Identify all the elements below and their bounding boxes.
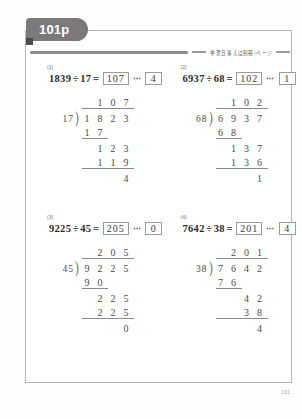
problem-number-2: (2) [181, 64, 187, 70]
problem-cell-1: (1) 1839 ÷ 17 = 107 ⋯ 4 1 0 7 [25, 62, 159, 212]
work-divisor-4: 38 [189, 264, 209, 274]
problem-cell-3: (3) 9225 ÷ 45 = 205 ⋯ 0 2 0 5 [25, 212, 159, 362]
problem-number-1: (1) [47, 64, 53, 70]
quotient-answer-box-4[interactable]: 201 [236, 222, 262, 235]
dividend-4: 7642 [183, 223, 205, 234]
work-step2-2: 1 3 7 [216, 143, 268, 154]
equals-symbol-2: = [226, 73, 232, 84]
work-dividend-digits-3: 9 2 2 5 [82, 263, 134, 274]
quotient-digits-1: 1 0 7 [82, 97, 134, 109]
quotient-row-2: 1 0 2 [189, 94, 268, 109]
work-remainder-row-1: 4 [55, 169, 134, 184]
equals-symbol-1: = [93, 73, 99, 84]
division-bracket-3: ) [75, 260, 80, 274]
long-division-work-4: 2 0 1 38 ) 7 6 4 2 [189, 244, 268, 334]
work-step3-2: 1 3 6 [216, 157, 268, 169]
worksheet-page: 101p 学習日 答えは別冊○ページ (1) 1839 ÷ 17 = 107 ⋯… [0, 0, 302, 419]
work-remainder-row-3: 0 [55, 319, 134, 334]
quotient-digits-3: 2 0 5 [82, 247, 134, 259]
work-dividend-digits-4: 7 6 4 2 [216, 263, 268, 274]
work-step1-row-2: 6 8 [189, 124, 268, 139]
work-step3-row-3: 2 2 5 [55, 304, 134, 319]
dividend-1: 1839 [49, 73, 71, 84]
work-step2-4: 4 2 [216, 293, 268, 304]
dividend-row-4: 38 ) 7 6 4 2 [189, 259, 268, 274]
problem-grid: (1) 1839 ÷ 17 = 107 ⋯ 4 1 0 7 [25, 62, 292, 362]
dividend-row-2: 68 ) 6 9 3 7 [189, 109, 268, 124]
remainder-dots-4: ⋯ [266, 224, 275, 233]
remainder-answer-box-2[interactable]: 1 [279, 72, 296, 85]
subtitle-rule-row: 学習日 答えは別冊○ページ [30, 47, 290, 57]
divisor-3: 45 [80, 223, 91, 234]
quotient-digits-2: 1 0 2 [216, 97, 268, 109]
equals-symbol-3: = [93, 223, 99, 234]
work-remainder-2: 1 [216, 173, 268, 184]
work-remainder-row-4: 4 [189, 319, 268, 334]
quotient-row-3: 2 0 5 [55, 244, 134, 259]
work-step1-2: 6 8 [216, 127, 242, 139]
work-remainder-1: 4 [82, 173, 134, 184]
quotient-digits-4: 2 0 1 [216, 247, 268, 259]
dividend-3: 9225 [49, 223, 71, 234]
division-bracket-1: ) [75, 110, 80, 124]
quotient-answer-box-2[interactable]: 102 [236, 72, 262, 85]
page-number-footer: 101 [282, 390, 290, 395]
work-step3-row-2: 1 3 6 [189, 154, 268, 169]
page-number-tab: 101p [26, 18, 88, 41]
work-remainder-4: 4 [216, 323, 268, 334]
divide-symbol-2: ÷ [206, 73, 212, 84]
work-step3-3: 2 2 5 [82, 307, 134, 319]
remainder-dots-3: ⋯ [133, 224, 142, 233]
work-step3-row-1: 1 1 9 [55, 154, 134, 169]
divide-symbol-1: ÷ [73, 73, 79, 84]
quotient-answer-box-1[interactable]: 107 [103, 72, 129, 85]
work-step2-row-4: 4 2 [189, 289, 268, 304]
work-remainder-row-2: 1 [189, 169, 268, 184]
quotient-row-4: 2 0 1 [189, 244, 268, 259]
divide-symbol-4: ÷ [206, 223, 212, 234]
work-divisor-3: 45 [55, 264, 75, 274]
work-step2-row-3: 2 2 5 [55, 289, 134, 304]
divisor-4: 38 [214, 223, 225, 234]
long-division-work-3: 2 0 5 45 ) 9 2 2 5 [55, 244, 134, 334]
equation-4: 7642 ÷ 38 = 201 ⋯ 4 [183, 222, 298, 235]
work-step3-1: 1 1 9 [82, 157, 134, 169]
divisor-1: 17 [80, 73, 91, 84]
problem-cell-2: (2) 6937 ÷ 68 = 102 ⋯ 1 1 0 2 [159, 62, 293, 212]
work-step1-row-4: 7 6 [189, 274, 268, 289]
quotient-answer-box-3[interactable]: 205 [103, 222, 129, 235]
dividend-row-3: 45 ) 9 2 2 5 [55, 259, 134, 274]
dividend-row-1: 17 ) 1 8 2 3 [55, 109, 134, 124]
divisor-2: 68 [214, 73, 225, 84]
header-dash-left [192, 51, 206, 53]
work-divisor-1: 17 [55, 114, 75, 124]
remainder-answer-box-4[interactable]: 4 [279, 222, 296, 235]
work-step1-4: 7 6 [216, 277, 242, 289]
divide-symbol-3: ÷ [73, 223, 79, 234]
work-step2-row-1: 1 2 3 [55, 139, 134, 154]
remainder-dots-1: ⋯ [133, 74, 142, 83]
work-step1-row-1: 1 7 [55, 124, 134, 139]
work-step2-row-2: 1 3 7 [189, 139, 268, 154]
equals-symbol-4: = [226, 223, 232, 234]
equation-2: 6937 ÷ 68 = 102 ⋯ 1 [183, 72, 298, 85]
tab-corner-accent [26, 38, 33, 45]
work-step2-1: 1 2 3 [82, 143, 134, 154]
problem-number-3: (3) [47, 214, 53, 220]
work-dividend-digits-2: 6 9 3 7 [216, 113, 268, 124]
work-step1-1: 1 7 [82, 127, 108, 139]
problem-cell-4: (4) 7642 ÷ 38 = 201 ⋯ 4 2 0 1 [159, 212, 293, 362]
header-rule-left [30, 51, 188, 54]
work-step2-3: 2 2 5 [82, 293, 134, 304]
work-step3-row-4: 3 8 [189, 304, 268, 319]
work-divisor-2: 68 [189, 114, 209, 124]
long-division-work-1: 1 0 7 17 ) 1 8 2 3 [55, 94, 134, 184]
quotient-row-1: 1 0 7 [55, 94, 134, 109]
equation-3: 9225 ÷ 45 = 205 ⋯ 0 [49, 222, 164, 235]
header-dash-right [276, 51, 290, 53]
work-remainder-3: 0 [82, 323, 134, 334]
subtitle-text: 学習日 答えは別冊○ページ [210, 48, 272, 56]
remainder-dots-2: ⋯ [266, 74, 275, 83]
problem-number-4: (4) [181, 214, 187, 220]
division-bracket-4: ) [209, 260, 214, 274]
